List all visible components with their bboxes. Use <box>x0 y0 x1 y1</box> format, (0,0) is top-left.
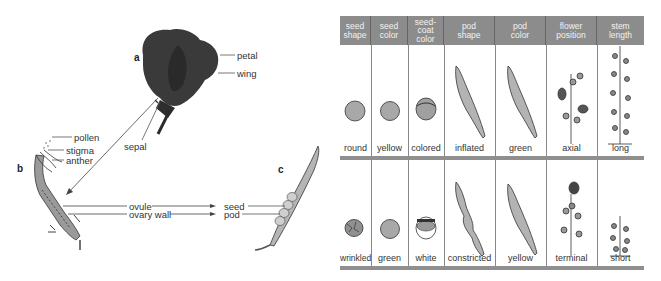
colored-seedcoat-icon <box>416 98 436 120</box>
panel-letter-a: a <box>134 52 140 63</box>
trait-terminal: terminal <box>546 254 597 263</box>
yellow-seed-icon <box>381 102 400 121</box>
label-ovary-wall: ovary wall <box>129 210 171 220</box>
trait-colored: colored <box>408 144 444 153</box>
trait-green-pod: green <box>495 144 546 153</box>
round-seed-icon <box>345 101 365 121</box>
trait-wrinkled: wrinkled <box>340 254 371 263</box>
label-petal: petal <box>237 51 258 61</box>
trait-white: white <box>408 254 444 263</box>
trait-green-seed: green <box>371 254 408 263</box>
terminal-flower-plant-icon <box>561 182 582 256</box>
open-pod-illustration <box>255 146 319 250</box>
panel-letter-c: c <box>278 164 284 175</box>
pea-flower-illustration <box>143 29 219 134</box>
trait-round: round <box>340 144 371 153</box>
trait-long: long <box>597 144 644 153</box>
trait-short: short <box>597 254 644 263</box>
trait-inflated: inflated <box>444 144 495 153</box>
wrinkled-seed-icon <box>345 220 363 237</box>
constricted-pod-icon <box>456 182 484 256</box>
axial-flower-plant-icon <box>558 73 588 144</box>
trait-yellow-pod: yellow <box>495 254 546 263</box>
trait-constricted: constricted <box>444 254 495 263</box>
long-stem-plant-icon <box>608 46 632 144</box>
trait-table: seedshape seedcolor seed-coatcolor podsh… <box>340 16 644 270</box>
label-anther: anther <box>66 156 93 166</box>
short-stem-plant-icon <box>610 216 630 256</box>
label-wing: wing <box>237 69 257 79</box>
trait-axial: axial <box>546 144 597 153</box>
trait-yellow-seed: yellow <box>371 144 408 153</box>
inflated-pod-icon <box>456 66 485 138</box>
yellow-pod-icon <box>508 184 537 255</box>
panel-letter-b: b <box>17 163 23 174</box>
white-seedcoat-icon <box>416 217 436 239</box>
label-sepal: sepal <box>124 142 147 152</box>
green-pod-icon <box>508 66 537 138</box>
green-seed-icon <box>381 220 400 239</box>
label-pollen: pollen <box>74 133 99 143</box>
label-pod: pod <box>224 210 240 220</box>
